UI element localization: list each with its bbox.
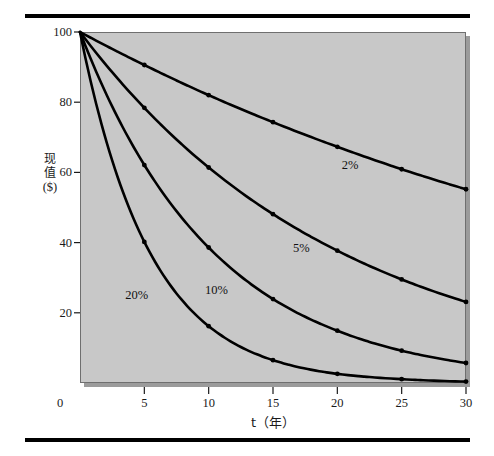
figure-container: 现 值 ($) t（年） 10080604020051015202530 2%5… xyxy=(0,0,494,456)
x-tick-label: 15 xyxy=(267,396,280,411)
x-tick-label: 5 xyxy=(141,396,147,411)
series-annotation-2pct: 2% xyxy=(342,158,359,173)
y-tick-label: 80 xyxy=(38,95,72,110)
x-tick-label: 0 xyxy=(57,396,63,411)
plot-area xyxy=(80,32,466,383)
bottom-rule xyxy=(25,438,470,442)
x-tick-label: 25 xyxy=(395,396,408,411)
y-tick-label: 40 xyxy=(38,235,72,250)
y-tick-label: 60 xyxy=(38,165,72,180)
x-axis-title: t（年） xyxy=(80,412,466,431)
series-annotation-20pct: 20% xyxy=(125,288,148,303)
y-tick-label: 100 xyxy=(38,25,72,40)
y-axis-title-unit: ($) xyxy=(30,180,70,194)
series-annotation-5pct: 5% xyxy=(293,240,310,255)
y-tick-label: 20 xyxy=(38,305,72,320)
x-tick-label: 30 xyxy=(460,396,473,411)
y-axis-title-line1: 现 xyxy=(30,152,70,166)
x-tick-label: 10 xyxy=(202,396,215,411)
top-rule xyxy=(25,14,470,18)
series-annotation-10pct: 10% xyxy=(205,282,228,297)
x-tick-label: 20 xyxy=(331,396,344,411)
